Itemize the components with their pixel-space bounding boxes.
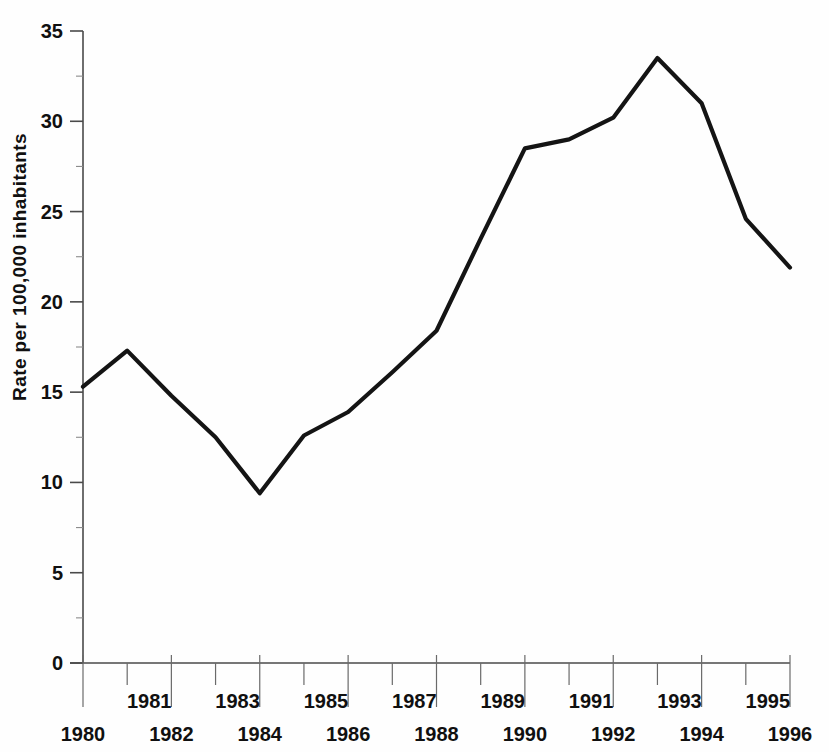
x-axis-tick-label-upper: 1993 bbox=[657, 690, 702, 712]
y-axis-tick-label: 25 bbox=[41, 201, 63, 223]
y-axis-tick-label: 35 bbox=[41, 20, 63, 42]
x-axis-tick-label-upper: 1987 bbox=[392, 690, 437, 712]
x-axis-tick-label-lower: 1980 bbox=[61, 723, 106, 745]
x-axis-tick-label-upper: 1985 bbox=[304, 690, 349, 712]
line-chart-figure: Rate per 100,000 inhabitants 19811983198… bbox=[0, 0, 829, 752]
chart-canvas: Rate per 100,000 inhabitants 19811983198… bbox=[0, 0, 829, 752]
x-axis-tick-label-lower: 1990 bbox=[503, 723, 548, 745]
y-axis-tick-label: 20 bbox=[41, 291, 63, 313]
x-axis-tick-label-upper: 1989 bbox=[480, 690, 525, 712]
y-axis-tick-label: 0 bbox=[52, 652, 63, 674]
x-axis-tick-label-lower: 1982 bbox=[149, 723, 194, 745]
x-axis-tick-label-upper: 1991 bbox=[569, 690, 614, 712]
y-axis-tick-label: 30 bbox=[41, 110, 63, 132]
y-axis-tick-label: 5 bbox=[52, 562, 63, 584]
x-axis-tick-labels: 1981198319851987198919911993199519801982… bbox=[61, 690, 813, 745]
x-axis-tick-label-upper: 1981 bbox=[127, 690, 172, 712]
y-axis bbox=[70, 31, 83, 663]
y-axis-tick-labels: 35302520151050 bbox=[41, 20, 63, 674]
y-axis-title: Rate per 100,000 inhabitants bbox=[9, 133, 30, 401]
x-axis-tick-label-upper: 1983 bbox=[215, 690, 260, 712]
x-axis-tick-label-lower: 1984 bbox=[238, 723, 283, 745]
y-axis-tick-label: 10 bbox=[41, 471, 63, 493]
x-axis-tick-label-lower: 1986 bbox=[326, 723, 371, 745]
x-axis-tick-label-lower: 1994 bbox=[679, 723, 724, 745]
x-axis-tick-label-upper: 1995 bbox=[746, 690, 791, 712]
y-axis-title-text: Rate per 100,000 inhabitants bbox=[9, 133, 30, 401]
data-series-line bbox=[83, 58, 790, 493]
series-line-rate bbox=[83, 58, 790, 493]
x-axis-tick-label-lower: 1992 bbox=[591, 723, 636, 745]
x-axis-tick-label-lower: 1988 bbox=[414, 723, 459, 745]
x-axis-tick-label-lower: 1996 bbox=[768, 723, 813, 745]
y-axis-tick-label: 15 bbox=[41, 381, 63, 403]
